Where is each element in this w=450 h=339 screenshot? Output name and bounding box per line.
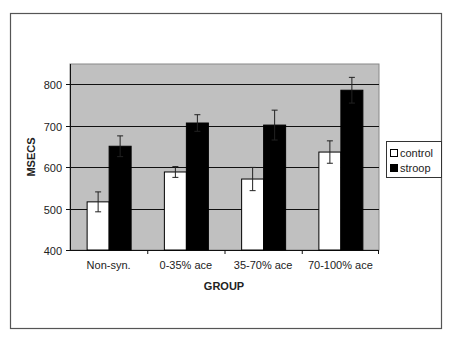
x-tick-label: Non-syn. bbox=[87, 259, 131, 271]
x-tick-label: 35-70% ace bbox=[234, 259, 293, 271]
y-axis-title: MSECS bbox=[25, 137, 37, 176]
bar-control bbox=[164, 172, 186, 250]
x-tick-label: 0-35% ace bbox=[160, 259, 213, 271]
y-tick-label: 400 bbox=[44, 245, 62, 257]
legend-label-control: control bbox=[400, 147, 433, 159]
bar-control bbox=[319, 152, 341, 250]
bar-stroop bbox=[109, 146, 131, 250]
x-axis-title: GROUP bbox=[204, 280, 244, 292]
y-tick-label: 700 bbox=[44, 121, 62, 133]
x-tick-label: 70-100% ace bbox=[308, 259, 373, 271]
bar-stroop bbox=[341, 90, 363, 250]
bar-stroop bbox=[186, 123, 208, 250]
bar-stroop bbox=[264, 125, 286, 250]
y-tick-label: 800 bbox=[44, 79, 62, 91]
chart: 400500600700800 Non-syn.0-35% ace35-70% … bbox=[0, 0, 450, 339]
legend: control stroop bbox=[387, 142, 442, 178]
y-tick-label: 600 bbox=[44, 162, 62, 174]
legend-swatch-stroop bbox=[391, 165, 398, 172]
legend-label-stroop: stroop bbox=[400, 162, 431, 174]
y-tick-label: 500 bbox=[44, 204, 62, 216]
legend-swatch-control bbox=[391, 150, 398, 157]
